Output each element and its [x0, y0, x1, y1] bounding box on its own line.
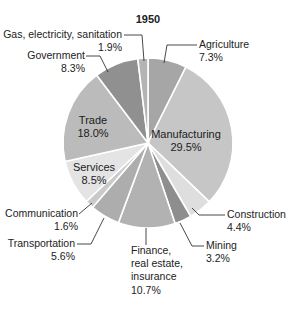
- slice-label: Communication1.6%: [5, 207, 78, 232]
- slice-label: Transportation5.6%: [8, 237, 75, 262]
- slice-label: Agriculture7.3%: [199, 38, 249, 63]
- pie-chart-svg: 1950 Agriculture7.3%Manufacturing29.5%Co…: [0, 0, 296, 312]
- leader-line: [79, 203, 92, 214]
- pie-chart: 1950 Agriculture7.3%Manufacturing29.5%Co…: [0, 0, 296, 312]
- slice-label: Government8.3%: [27, 49, 85, 74]
- slice-label: Mining3.2%: [206, 239, 237, 264]
- leader-line: [77, 218, 104, 244]
- leader-line: [180, 223, 204, 246]
- chart-title: 1950: [136, 13, 160, 25]
- leader-line: [124, 35, 144, 61]
- pie-slices: [63, 58, 233, 228]
- slice-label: Trade18.0%: [77, 114, 108, 139]
- slice-label: Finance,real estate,insurance10.7%: [131, 244, 183, 296]
- slice-label: Construction4.4%: [227, 208, 286, 233]
